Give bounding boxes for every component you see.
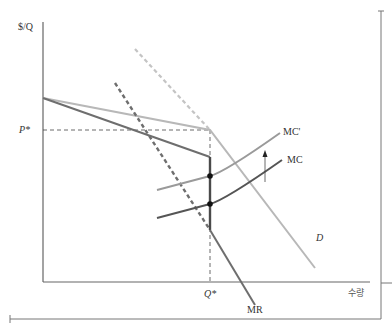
kinked-demand-diagram: $/Q P* Q* 수량 MR D MC' MC — [0, 0, 392, 333]
mc-prime-label: MC' — [283, 126, 301, 137]
mr-label: MR — [247, 304, 263, 315]
demand-label: D — [315, 232, 324, 243]
mc-curve — [157, 160, 282, 218]
mc-label: MC — [287, 154, 303, 165]
q-star-label: Q* — [204, 288, 216, 299]
p-star-label: P* — [18, 124, 30, 135]
mc-intersection-point — [207, 201, 213, 207]
demand-curve — [43, 98, 315, 268]
shift-arrow-head — [263, 150, 268, 157]
mr-upper-segment — [43, 98, 210, 157]
mc-prime-intersection-point — [207, 173, 213, 179]
x-axis-label: 수량 — [348, 287, 364, 298]
y-axis-label: $/Q — [18, 21, 34, 32]
mr-lower-segment — [210, 230, 255, 305]
